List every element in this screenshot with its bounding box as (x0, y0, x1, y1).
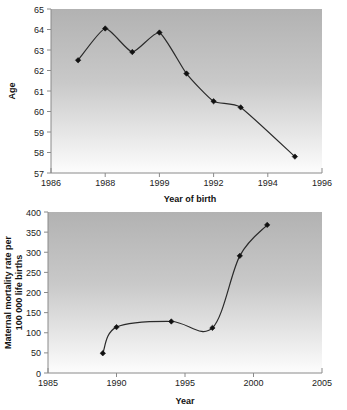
y-tick-label: 400 (26, 208, 41, 218)
y-axis-title: Age (7, 82, 17, 99)
x-tick-label: 1995 (175, 378, 195, 388)
y-axis-ticks (47, 9, 51, 173)
x-tick-label: 1990 (106, 378, 126, 388)
y-tick-label: 150 (26, 308, 41, 318)
x-tick-label: 1994 (258, 178, 278, 188)
y-axis-title-line1: Maternal mortality rate per (3, 235, 13, 349)
y-tick-label: 63 (34, 46, 44, 56)
y-tick-label: 61 (34, 87, 44, 97)
y-tick-label: 0 (36, 369, 41, 379)
y-tick-label: 59 (34, 128, 44, 138)
y-tick-label: 300 (26, 248, 41, 258)
plot-area-background (48, 212, 322, 373)
chart-panel-age-vs-year-of-birth: 65 64 63 62 61 60 59 58 57 Age (0, 0, 347, 205)
x-tick-label: 1986 (41, 178, 61, 188)
y-tick-label: 100 (26, 328, 41, 338)
x-axis-tick-labels: 1986 1988 1999 1992 1994 1996 (41, 178, 332, 188)
y-tick-label: 200 (26, 288, 41, 298)
y-tick-label: 60 (34, 107, 44, 117)
y-axis-tick-labels: 65 64 63 62 61 60 59 58 57 (34, 5, 44, 179)
x-tick-label: 1996 (312, 178, 332, 188)
y-axis-ticks (44, 212, 48, 373)
y-tick-label: 64 (34, 25, 44, 35)
x-tick-label: 2000 (243, 378, 263, 388)
x-tick-label: 2005 (312, 378, 332, 388)
two-panel-line-chart-figure: 65 64 63 62 61 60 59 58 57 Age (0, 0, 347, 410)
y-axis-title-line2: 100 000 life births (14, 255, 24, 331)
x-tick-label: 1985 (38, 378, 58, 388)
y-tick-label: 250 (26, 268, 41, 278)
x-tick-label: 1992 (204, 178, 224, 188)
x-axis-title: Year of birth (164, 194, 217, 204)
chart-panel-maternal-mortality: 400 350 300 250 200 150 100 50 0 Materna… (0, 205, 347, 410)
x-axis-title: Year (175, 396, 195, 406)
y-tick-label: 350 (26, 228, 41, 238)
y-tick-label: 57 (34, 169, 44, 179)
age-chart-svg: 65 64 63 62 61 60 59 58 57 Age (0, 0, 347, 205)
x-tick-label: 1999 (149, 178, 169, 188)
y-tick-label: 50 (31, 348, 41, 358)
x-axis-tick-labels: 1985 1990 1995 2000 2005 (38, 378, 332, 388)
y-tick-label: 58 (34, 148, 44, 158)
x-tick-label: 1988 (95, 178, 115, 188)
y-tick-label: 65 (34, 5, 44, 15)
plot-area-background (51, 9, 322, 173)
y-tick-label: 62 (34, 66, 44, 76)
maternal-mortality-chart-svg: 400 350 300 250 200 150 100 50 0 Materna… (0, 205, 347, 410)
y-axis-tick-labels: 400 350 300 250 200 150 100 50 0 (26, 208, 41, 379)
